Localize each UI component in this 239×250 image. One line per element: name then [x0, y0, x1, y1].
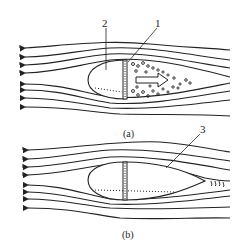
flow-diagram: 2 1 (a) 3 — [0, 0, 239, 250]
label-1: 1 — [155, 17, 161, 29]
label-3: 3 — [200, 123, 206, 135]
panel-a: 2 1 (a) — [25, 17, 230, 140]
streamlined-body-b — [88, 162, 205, 200]
body-nose-a — [88, 60, 125, 99]
panel-b: 3 (b) — [28, 123, 230, 241]
small-tail-wake — [211, 181, 224, 187]
label-2: 2 — [102, 17, 108, 29]
caption-b: (b) — [122, 229, 134, 241]
caption-a: (a) — [123, 128, 134, 140]
wake-direction-arrow — [136, 73, 168, 87]
